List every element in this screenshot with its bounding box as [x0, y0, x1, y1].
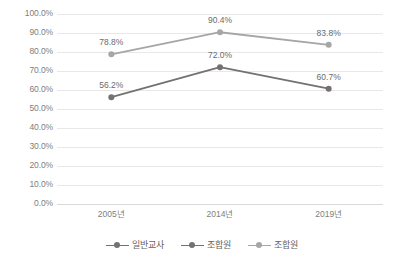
- plot-area: 56.2%72.0%60.7%78.8%90.4%83.8%: [57, 14, 383, 204]
- legend-marker-icon: [181, 241, 204, 250]
- y-axis-tick-label: 70.0%: [3, 66, 53, 75]
- data-point-marker: [217, 29, 223, 35]
- y-axis-tick-label: 80.0%: [3, 47, 53, 56]
- legend-label: 일반교사: [132, 240, 164, 251]
- y-axis-tick-label: 40.0%: [3, 123, 53, 132]
- legend-marker-icon: [106, 241, 129, 250]
- y-axis-tick-label: 100.0%: [3, 9, 53, 18]
- series-1: [108, 64, 331, 100]
- series-layer: [57, 14, 383, 204]
- chart-legend: 일반교사조합원조합원: [0, 236, 404, 254]
- legend-label: 조합원: [207, 240, 231, 251]
- legend-label: 조합원: [274, 240, 298, 251]
- x-axis-tick-label: 2019년: [315, 208, 342, 220]
- legend-item[interactable]: 일반교사: [106, 240, 164, 251]
- y-axis-tick-label: 30.0%: [3, 142, 53, 151]
- series-line: [111, 32, 328, 54]
- y-axis: 0.0%10.0%20.0%30.0%40.0%50.0%60.0%70.0%8…: [0, 14, 53, 204]
- y-axis-tick-label: 60.0%: [3, 85, 53, 94]
- data-point-marker: [108, 51, 114, 57]
- data-point-marker: [217, 64, 223, 70]
- y-axis-tick-label: 50.0%: [3, 104, 53, 113]
- y-axis-tick-label: 20.0%: [3, 161, 53, 170]
- data-point-marker: [326, 42, 332, 48]
- legend-marker-icon: [248, 241, 271, 250]
- series-2: [108, 29, 331, 57]
- x-axis-tick-label: 2005년: [98, 208, 125, 220]
- data-point-marker: [108, 94, 114, 100]
- y-axis-tick-label: 90.0%: [3, 28, 53, 37]
- data-point-marker: [326, 86, 332, 92]
- y-axis-tick-label: 0.0%: [3, 199, 53, 208]
- legend-item[interactable]: 조합원: [248, 240, 298, 251]
- series-line: [111, 67, 328, 97]
- legend-item[interactable]: 조합원: [181, 240, 231, 251]
- line-chart: 0.0%10.0%20.0%30.0%40.0%50.0%60.0%70.0%8…: [0, 0, 404, 262]
- gridline: [57, 204, 383, 205]
- x-axis-tick-label: 2014년: [207, 208, 234, 220]
- y-axis-tick-label: 10.0%: [3, 180, 53, 189]
- x-axis: 2005년2014년2019년: [57, 208, 383, 224]
